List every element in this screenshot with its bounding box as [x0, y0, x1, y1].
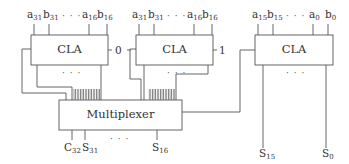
input-a16-cla2: a16: [187, 9, 202, 22]
input-b16-cla2: b16: [202, 9, 218, 22]
carry-in-0: 0: [115, 45, 122, 56]
input-b15-cla3: b15: [267, 9, 283, 22]
input-a0-cla3: a0: [309, 9, 320, 22]
input-dots-cla3: · · ·: [286, 12, 305, 21]
cla-label-3: CLA: [255, 44, 333, 56]
input-a31-cla1: a31: [27, 9, 42, 22]
output-s16: S16: [152, 142, 168, 155]
input-dots-cla2: · · ·: [167, 12, 186, 21]
input-dots-cla1: · · ·: [62, 12, 81, 21]
input-a16-cla1: a16: [82, 9, 97, 22]
mux-output-dots: · · ·: [110, 135, 129, 144]
bus-hatch-2: [148, 89, 175, 100]
input-b31-cla1: b31: [43, 9, 59, 22]
output-s0: S0: [322, 148, 334, 161]
cla-label-2: CLA: [136, 44, 213, 56]
input-b16-cla1: b16: [97, 9, 113, 22]
cla1-output-dots: · · ·: [62, 69, 81, 78]
bus-hatch-1: [73, 89, 100, 100]
output-s15: S15: [259, 148, 275, 161]
input-b0-cla3: b0: [325, 9, 336, 22]
output-s31: S31: [82, 142, 98, 155]
cla3-output-dots: · · ·: [286, 69, 305, 78]
diagram-wiring: [0, 0, 349, 164]
multiplexer-label: Multiplexer: [59, 109, 182, 121]
cla2-output-dots: · · ·: [167, 69, 186, 78]
carry-in-1: 1: [219, 45, 226, 56]
input-b31-cla2: b31: [148, 9, 164, 22]
input-a31-cla2: a31: [132, 9, 147, 22]
output-c32: C32: [64, 142, 81, 155]
cla-label-1: CLA: [31, 44, 108, 56]
input-a15-cla3: a15: [252, 9, 267, 22]
